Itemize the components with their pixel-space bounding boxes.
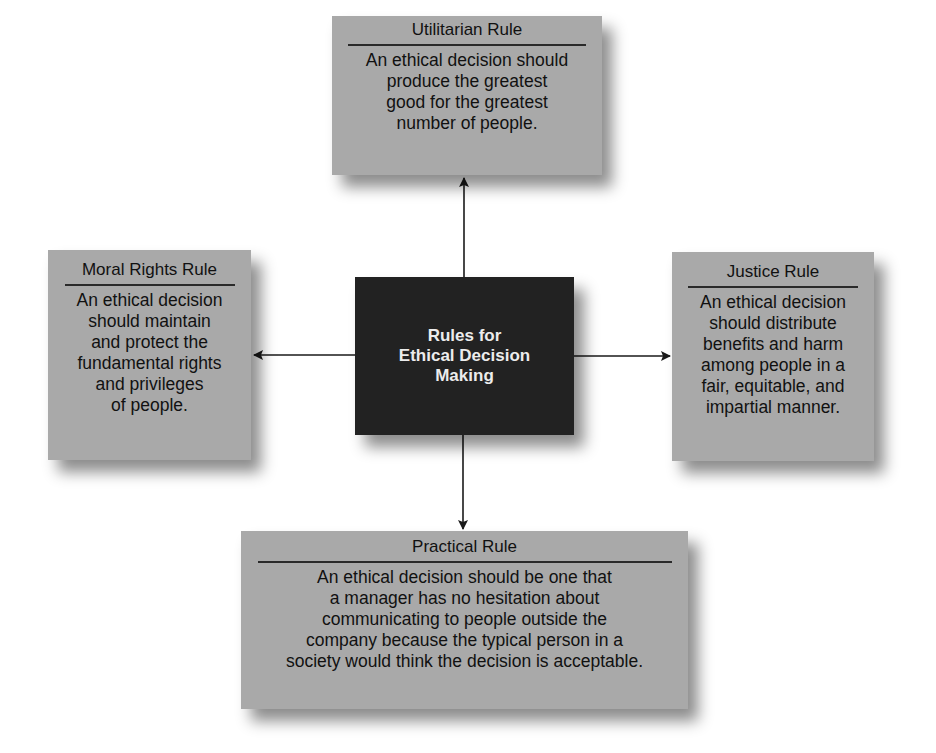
justice-rule-box: Justice Rule An ethical decision should … — [672, 252, 874, 461]
central-concept-box: Rules for Ethical Decision Making — [355, 277, 574, 435]
moral-rights-rule-description: An ethical decision should maintain and … — [48, 286, 251, 416]
utilitarian-rule-description: An ethical decision should produce the g… — [332, 46, 602, 134]
justice-rule-description: An ethical decision should distribute be… — [672, 288, 874, 418]
utilitarian-rule-box: Utilitarian Rule An ethical decision sho… — [332, 16, 602, 175]
utilitarian-rule-title: Utilitarian Rule — [348, 16, 586, 46]
moral-rights-rule-box: Moral Rights Rule An ethical decision sh… — [48, 250, 251, 460]
moral-rights-rule-title: Moral Rights Rule — [65, 250, 235, 286]
practical-rule-description: An ethical decision should be one that a… — [241, 563, 688, 672]
diagram-canvas: Utilitarian Rule An ethical decision sho… — [0, 0, 936, 753]
practical-rule-title: Practical Rule — [258, 531, 672, 563]
practical-rule-box: Practical Rule An ethical decision shoul… — [241, 531, 688, 709]
justice-rule-title: Justice Rule — [688, 252, 858, 288]
central-concept-label: Rules for Ethical Decision Making — [399, 326, 530, 386]
